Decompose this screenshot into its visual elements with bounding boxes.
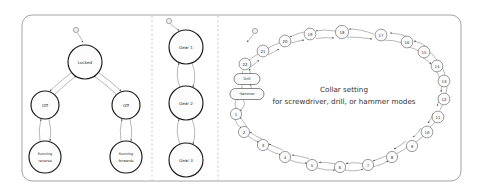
state-machine-figure: Locked Off Off Running reverse Running f… (0, 0, 483, 195)
state-label-drill: Drill (243, 77, 250, 81)
collar-setting-panel: Drill Hammer 1 2 3 4 5 6 7 8 (230, 25, 450, 172)
state-label-gear1: Gear 1 (179, 45, 193, 50)
edge-start-to-locked (78, 33, 84, 43)
edge-running-reverse-to-off-left (39, 119, 41, 141)
state-node-running-forwards[interactable] (110, 141, 142, 173)
edge-running-forwards-to-off-right (120, 119, 122, 141)
motor-state-panel: Locked Off Off Running reverse Running f… (29, 27, 142, 173)
state-label-collar-11: 11 (436, 115, 441, 120)
collar-caption-line1: Collar setting (320, 85, 368, 94)
state-label-collar-12: 12 (442, 97, 447, 102)
collar-caption-line2: for screwdriver, drill, or hammer modes (272, 97, 415, 106)
edge-off-left-to-locked (55, 76, 76, 94)
edge-start-to-gear1 (171, 24, 180, 31)
state-label-gear3: Gear 3 (179, 158, 193, 163)
state-label-gear2: Gear 2 (179, 101, 193, 106)
state-label-collar-10: 10 (425, 130, 430, 135)
gear-state-panel: Gear 1 Gear 2 Gear 3 (166, 18, 203, 177)
state-label-off-right: Off (123, 103, 129, 108)
edge-off-right-to-locked (94, 76, 116, 94)
state-label-collar-19: 19 (308, 32, 313, 37)
initial-state-dot-gears (166, 18, 171, 23)
state-label-hammer: Hammer (239, 92, 255, 96)
state-label-off-left: Off (42, 103, 48, 108)
edge-start-to-node-22 (247, 34, 254, 42)
state-label-running-forwards-line2: forwards (118, 159, 133, 163)
edge-gear2-to-gear1 (177, 63, 180, 87)
state-label-collar-13: 13 (442, 79, 447, 84)
state-label-collar-17: 17 (379, 33, 384, 38)
state-label-collar-21: 21 (261, 49, 266, 54)
edge-gear2-to-gear3 (192, 119, 195, 144)
state-label-collar-16: 16 (405, 40, 410, 45)
state-label-collar-14: 14 (435, 64, 440, 69)
state-label-running-forwards-line1: Running (119, 152, 133, 156)
initial-state-dot-collar (252, 28, 257, 33)
edge-off-left-to-running-reverse (49, 119, 51, 141)
initial-state-dot-motor (73, 27, 78, 32)
edge-locked-to-off-left (50, 73, 71, 91)
state-label-locked: Locked (78, 60, 93, 65)
edge-gear1-to-gear2 (192, 63, 195, 87)
state-node-running-reverse[interactable] (29, 141, 61, 173)
state-label-running-reverse-line1: Running (38, 152, 52, 156)
state-label-collar-22: 22 (243, 62, 248, 67)
edge-off-right-to-running-forwards (130, 119, 132, 141)
state-label-collar-20: 20 (283, 39, 288, 44)
state-label-collar-18: 18 (340, 30, 345, 35)
state-label-running-reverse-line2: reverse (38, 159, 51, 163)
state-label-collar-15: 15 (422, 50, 427, 55)
edge-gear3-to-gear2 (177, 119, 180, 144)
